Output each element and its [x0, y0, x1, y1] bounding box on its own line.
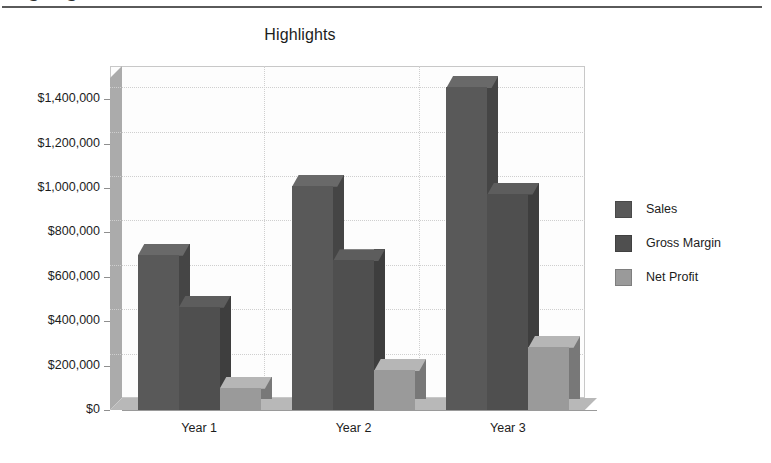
- y-axis-tick: [104, 410, 110, 411]
- gridline-horizontal: [110, 87, 585, 88]
- y-axis-label: $200,000: [4, 358, 100, 372]
- bar-gross-margin-year-3: [487, 194, 528, 410]
- y-axis-label: $400,000: [4, 313, 100, 327]
- bar-front-face: [528, 347, 569, 410]
- y-axis-tick: [104, 188, 110, 189]
- x-axis-label: Year 3: [448, 421, 568, 435]
- bar-front-face: [446, 87, 487, 410]
- y-axis-label: $1,000,000: [4, 180, 100, 194]
- bar-sales-year-2: [292, 186, 333, 410]
- bar-front-face: [292, 186, 333, 410]
- gridline-vertical: [264, 66, 265, 398]
- x-axis-line: [122, 410, 597, 411]
- bar-net-profit-year-3: [528, 347, 569, 410]
- bar-front-face: [179, 307, 220, 410]
- bar-sales-year-1: [138, 255, 179, 410]
- plot-side-wall: [110, 66, 122, 410]
- x-axis-label: Year 1: [139, 421, 259, 435]
- bar-front-face: [333, 260, 374, 410]
- bar-net-profit-year-1: [220, 388, 261, 410]
- y-axis-tick: [104, 366, 110, 367]
- bar-front-face: [138, 255, 179, 410]
- chart-page: Highlights Highlights $0$200,000$400,000…: [0, 0, 771, 463]
- legend-label: Net Profit: [646, 270, 698, 284]
- x-axis-label: Year 2: [294, 421, 414, 435]
- y-axis-label: $0: [4, 402, 100, 416]
- y-axis-tick: [104, 144, 110, 145]
- bar-gross-margin-year-2: [333, 260, 374, 410]
- gridline-horizontal: [110, 132, 585, 133]
- bar-sales-year-3: [446, 87, 487, 410]
- legend-swatch-icon: [615, 201, 632, 218]
- y-axis-tick: [104, 232, 110, 233]
- legend-swatch-icon: [615, 235, 632, 252]
- y-axis-tick: [104, 99, 110, 100]
- legend-item-gross-margin[interactable]: Gross Margin: [615, 226, 721, 260]
- bar-front-face: [374, 370, 415, 410]
- gridline-vertical: [419, 66, 420, 398]
- gridline-horizontal: [110, 176, 585, 177]
- bar-front-face: [487, 194, 528, 410]
- y-axis-tick: [104, 277, 110, 278]
- bar-net-profit-year-2: [374, 370, 415, 410]
- bar-gross-margin-year-1: [179, 307, 220, 410]
- legend-swatch-icon: [615, 269, 632, 286]
- y-axis-label: $600,000: [4, 269, 100, 283]
- legend-item-sales[interactable]: Sales: [615, 192, 721, 226]
- y-axis-label: $800,000: [4, 224, 100, 238]
- bar-front-face: [220, 388, 261, 410]
- y-axis-label: $1,400,000: [4, 91, 100, 105]
- legend-item-net-profit[interactable]: Net Profit: [615, 260, 721, 294]
- legend-label: Gross Margin: [646, 236, 721, 250]
- y-axis-tick: [104, 321, 110, 322]
- y-axis-label: $1,200,000: [4, 136, 100, 150]
- legend-label: Sales: [646, 202, 677, 216]
- chart-legend: SalesGross MarginNet Profit: [615, 192, 721, 294]
